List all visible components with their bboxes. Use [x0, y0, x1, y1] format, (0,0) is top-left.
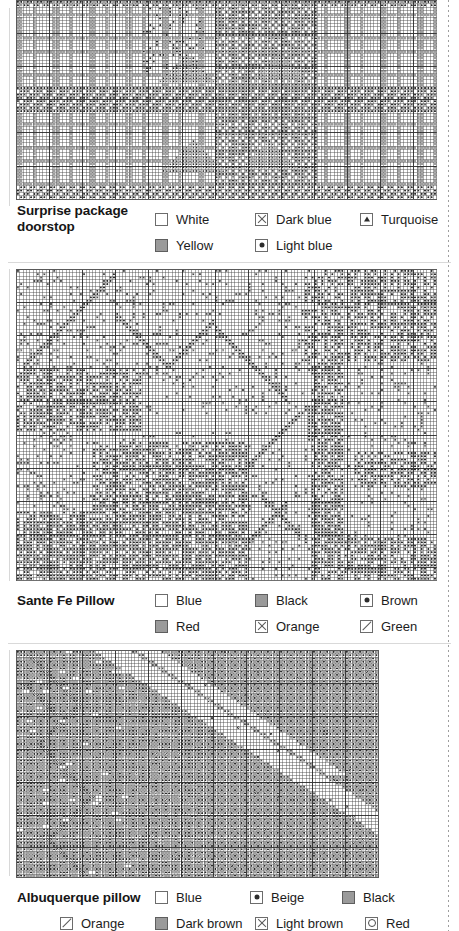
legend-label: Light brown — [276, 916, 343, 931]
legend-label: Blue — [176, 890, 202, 905]
chart-albuquerque — [0, 644, 459, 878]
swatch-ring-icon — [365, 917, 378, 930]
section-albuquerque: Albuquerque pillow Blue Beige Black — [0, 644, 459, 931]
legend-item-light-blue[interactable]: Light blue — [255, 238, 360, 253]
chart-title-doorstop: Surprise package doorstop — [0, 203, 155, 235]
legend-cells: Yellow Light blue — [155, 238, 459, 253]
chart-canvas-santefe — [16, 269, 437, 581]
legend-label: Black — [363, 890, 395, 905]
chart-title-santefe: Sante Fe Pillow — [0, 593, 155, 608]
chart-title-albuquerque: Albuquerque pillow — [0, 890, 155, 905]
legend-item-blue[interactable]: Blue — [155, 593, 255, 608]
legend-row: Red Orange Green — [0, 613, 459, 639]
chart-santefe — [0, 263, 459, 581]
swatch-empty-icon — [155, 891, 168, 904]
legend-label: Dark brown — [176, 916, 242, 931]
legend-item-black[interactable]: Black — [255, 593, 360, 608]
legend-cells: Red Orange Green — [155, 619, 459, 634]
swatch-filled-icon — [155, 239, 168, 252]
legend-santefe: Sante Fe Pillow Blue Black Brown — [0, 581, 459, 643]
document-page: Surprise package doorstop White Dark blu… — [0, 0, 459, 931]
legend-label: Orange — [81, 916, 124, 931]
legend-row: Sante Fe Pillow Blue Black Brown — [0, 587, 459, 613]
swatch-cross-icon — [255, 620, 268, 633]
legend-label: Red — [386, 916, 410, 931]
legend-label: Green — [381, 619, 417, 634]
legend-label: Red — [176, 619, 200, 634]
swatch-triangle-icon — [360, 213, 373, 226]
swatch-empty-icon — [155, 213, 168, 226]
section-doorstop: Surprise package doorstop White Dark blu… — [0, 0, 459, 263]
legend-item-dark-brown[interactable]: Dark brown — [155, 916, 255, 931]
legend-label: Yellow — [176, 238, 213, 253]
swatch-cross-icon — [255, 213, 268, 226]
swatch-slash-icon — [60, 917, 73, 930]
legend-cells: White Dark blue Turquoise — [155, 212, 459, 227]
legend-label: Beige — [271, 890, 304, 905]
legend-cells: Orange Dark brown Light brown Red — [60, 916, 459, 931]
legend-item-green[interactable]: Green — [360, 619, 417, 634]
chart-canvas-albuquerque — [16, 650, 379, 878]
swatch-filled-icon — [155, 620, 168, 633]
swatch-dot-icon — [360, 594, 373, 607]
legend-label: Orange — [276, 619, 319, 634]
legend-item-yellow[interactable]: Yellow — [155, 238, 255, 253]
legend-item-light-brown[interactable]: Light brown — [255, 916, 365, 931]
legend-label: Black — [276, 593, 308, 608]
legend-label: Light blue — [276, 238, 332, 253]
legend-albuquerque: Albuquerque pillow Blue Beige Black — [0, 878, 459, 931]
legend-row: Yellow Light blue — [0, 232, 459, 258]
section-santefe: Sante Fe Pillow Blue Black Brown — [0, 263, 459, 644]
legend-cells: Blue Black Brown — [155, 593, 459, 608]
legend-item-turquoise[interactable]: Turquoise — [360, 212, 438, 227]
legend-label: Blue — [176, 593, 202, 608]
legend-item-white[interactable]: White — [155, 212, 255, 227]
legend-label: Turquoise — [381, 212, 438, 227]
legend-label: Dark blue — [276, 212, 332, 227]
chart-canvas-doorstop — [16, 0, 437, 200]
legend-label: White — [176, 212, 209, 227]
legend-label: Brown — [381, 593, 418, 608]
swatch-filled-icon — [342, 891, 355, 904]
legend-cells: Blue Beige Black — [155, 890, 459, 905]
swatch-dot-icon — [250, 891, 263, 904]
chart-doorstop — [0, 0, 459, 200]
legend-doorstop: Surprise package doorstop White Dark blu… — [0, 200, 459, 262]
legend-item-red[interactable]: Red — [155, 619, 255, 634]
legend-item-orange[interactable]: Orange — [60, 916, 155, 931]
legend-row: Albuquerque pillow Blue Beige Black — [0, 884, 459, 910]
chart-title-line: doorstop — [17, 219, 155, 235]
chart-title-line: Surprise package — [17, 203, 155, 219]
swatch-filled-icon — [255, 594, 268, 607]
swatch-dot-icon — [255, 239, 268, 252]
legend-item-blue[interactable]: Blue — [155, 890, 250, 905]
legend-item-beige[interactable]: Beige — [250, 890, 342, 905]
legend-item-red[interactable]: Red — [365, 916, 410, 931]
swatch-empty-icon — [155, 594, 168, 607]
legend-row: Orange Dark brown Light brown Red — [0, 910, 459, 931]
swatch-filled-icon — [155, 917, 168, 930]
swatch-cross-icon — [255, 917, 268, 930]
legend-row: Surprise package doorstop White Dark blu… — [0, 206, 459, 232]
legend-item-brown[interactable]: Brown — [360, 593, 418, 608]
swatch-slash-icon — [360, 620, 373, 633]
legend-item-dark-blue[interactable]: Dark blue — [255, 212, 360, 227]
legend-item-orange[interactable]: Orange — [255, 619, 360, 634]
legend-item-black[interactable]: Black — [342, 890, 395, 905]
